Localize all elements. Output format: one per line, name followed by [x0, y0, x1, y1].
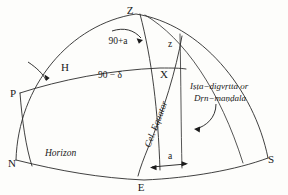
label-south: S: [268, 153, 274, 165]
label-star: X: [160, 68, 168, 80]
label-pole: P: [10, 87, 16, 99]
amplitude-arrow-left-head: [150, 165, 157, 170]
arrow-to-vertical-circle-shaft: [196, 104, 216, 129]
label-horizon: Horizon: [44, 148, 76, 158]
label-vertical-circle-line1: Iṣṭa−digvṛtta or: [189, 81, 249, 91]
arrow-to-h-shaft: [28, 62, 46, 80]
amplitude-arrow-shaft: [152, 164, 186, 167]
label-zenith: Z: [127, 4, 134, 16]
label-vertical-circle-line2: Dṛn−maṇḍala: [193, 93, 247, 103]
label-north: N: [8, 157, 16, 169]
celestial-sphere-diagram: Z P N S E X H z 90+a 90 − δ a Horizon Ce…: [0, 0, 288, 195]
label-polar-distance: 90 − δ: [98, 70, 123, 80]
arrow-to-zenith-angle-head: [137, 38, 143, 44]
horizon-arc: [16, 158, 268, 180]
reference-vertical-segment: [180, 34, 182, 168]
amplitude-arrow-right-head: [181, 161, 188, 166]
label-east: E: [138, 181, 145, 193]
arrow-to-vertical-circle-head: [194, 126, 200, 132]
hour-circle-arc: [20, 93, 32, 166]
label-amplitude: a: [168, 151, 173, 161]
arrow-to-h-head: [45, 75, 50, 82]
sphere-drawing: Z P N S E X H z 90+a 90 − δ a Horizon Ce…: [0, 0, 288, 195]
label-hour-point: H: [61, 61, 69, 73]
label-azimuth-complement: 90+a: [108, 36, 128, 46]
label-zenith-distance: z: [168, 39, 172, 49]
